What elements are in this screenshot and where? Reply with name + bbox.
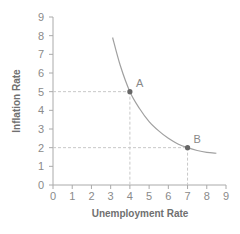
x-tick-label: 0 [50, 190, 56, 202]
point-B [185, 145, 190, 150]
y-tick-label: 2 [38, 142, 44, 154]
axes: 01234567890123456789 [38, 11, 229, 202]
x-axis-label: Unemployment Rate [92, 208, 189, 219]
x-tick-label: 8 [204, 190, 210, 202]
point-label-B: B [194, 133, 201, 145]
y-axis-label: Inflation Rate [11, 69, 22, 133]
y-tick-label: 7 [38, 48, 44, 60]
x-tick-label: 6 [165, 190, 171, 202]
y-tick-label: 4 [38, 104, 44, 116]
phillips-curve-chart: 01234567890123456789 AB Unemployment Rat… [0, 0, 240, 234]
y-tick-label: 6 [38, 67, 44, 79]
y-tick-label: 5 [38, 86, 44, 98]
data-points: AB [127, 77, 201, 151]
y-tick-label: 8 [38, 30, 44, 42]
x-tick-label: 3 [108, 190, 114, 202]
y-tick-label: 1 [38, 160, 44, 172]
x-tick-label: 7 [184, 190, 190, 202]
y-tick-label: 0 [38, 179, 44, 191]
x-tick-label: 5 [146, 190, 152, 202]
x-tick-label: 1 [69, 190, 75, 202]
x-tick-label: 4 [127, 190, 133, 202]
point-label-A: A [136, 77, 144, 89]
point-A [127, 89, 132, 94]
y-tick-label: 3 [38, 123, 44, 135]
x-tick-label: 2 [88, 190, 94, 202]
x-tick-label: 9 [223, 190, 229, 202]
y-tick-label: 9 [38, 11, 44, 23]
